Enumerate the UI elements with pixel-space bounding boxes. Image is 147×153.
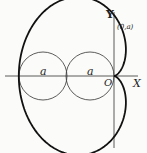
cardioid-diagram: Y (0,a) X O a a [0, 0, 147, 153]
x-axis-label: X [133, 78, 141, 89]
left-radius-label: a [40, 66, 47, 77]
point-label: (0,a) [117, 24, 133, 31]
origin-label: O [104, 78, 112, 88]
right-radius-label: a [87, 66, 94, 77]
y-axis-label: Y [106, 9, 114, 20]
